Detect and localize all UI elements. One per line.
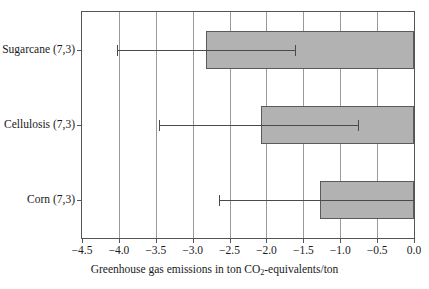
x-axis-title: Greenhouse gas emissions in ton CO2-equi… [0,264,429,276]
x-axis-tick [193,238,194,243]
x-axis-tick-label: −2.0 [256,245,277,257]
x-axis-tick-label: −1.0 [330,245,351,257]
x-axis-tick [156,238,157,243]
plot-area: −4.5−4.0−3.5−3.0−2.5−2.0−1.5−1.0−0.50.0S… [81,11,415,239]
error-bar-line [159,125,357,126]
y-axis-tick [77,200,82,201]
x-gridline [156,12,157,238]
x-axis-tick-label: −1.5 [293,245,314,257]
x-axis-tick [377,238,378,243]
error-bar-line [117,50,295,51]
error-bar-line [219,200,414,201]
y-axis-tick-label: Sugarcane (7,3) [2,44,75,56]
x-axis-tick [230,238,231,243]
x-axis-tick-label: −3.0 [182,245,203,257]
x-axis-tick [266,238,267,243]
error-bar-cap-high [295,45,296,56]
y-axis-tick [77,125,82,126]
greenhouse-gas-emissions-bar-chart: −4.5−4.0−3.5−3.0−2.5−2.0−1.5−1.0−0.50.0S… [0,0,429,289]
x-axis-title-subscript: 2 [260,268,264,277]
x-axis-tick-label: −3.5 [145,245,166,257]
y-axis-tick-label: Cellulosis (7,3) [4,119,75,131]
x-axis-tick [82,238,83,243]
y-axis-tick-label: Corn (7,3) [27,195,75,207]
x-axis-tick [119,238,120,243]
x-axis-title-before: Greenhouse gas emissions in ton CO [91,263,261,275]
x-axis-tick-label: −4.0 [108,245,129,257]
x-axis-tick [303,238,304,243]
error-bar-cap-high [358,120,359,131]
x-axis-tick [340,238,341,243]
x-axis-tick-label: −2.5 [219,245,240,257]
x-axis-title-after: -equivalents/ton [264,263,338,275]
error-bar-cap-low [219,195,220,206]
x-axis-tick [414,238,415,243]
x-axis-tick-label: −0.5 [367,245,388,257]
error-bar-cap-low [159,120,160,131]
error-bar-cap-low [117,45,118,56]
x-axis-tick-label: 0.0 [407,245,421,257]
x-gridline [119,12,120,238]
y-axis-tick [77,50,82,51]
x-axis-tick-label: −4.5 [72,245,93,257]
